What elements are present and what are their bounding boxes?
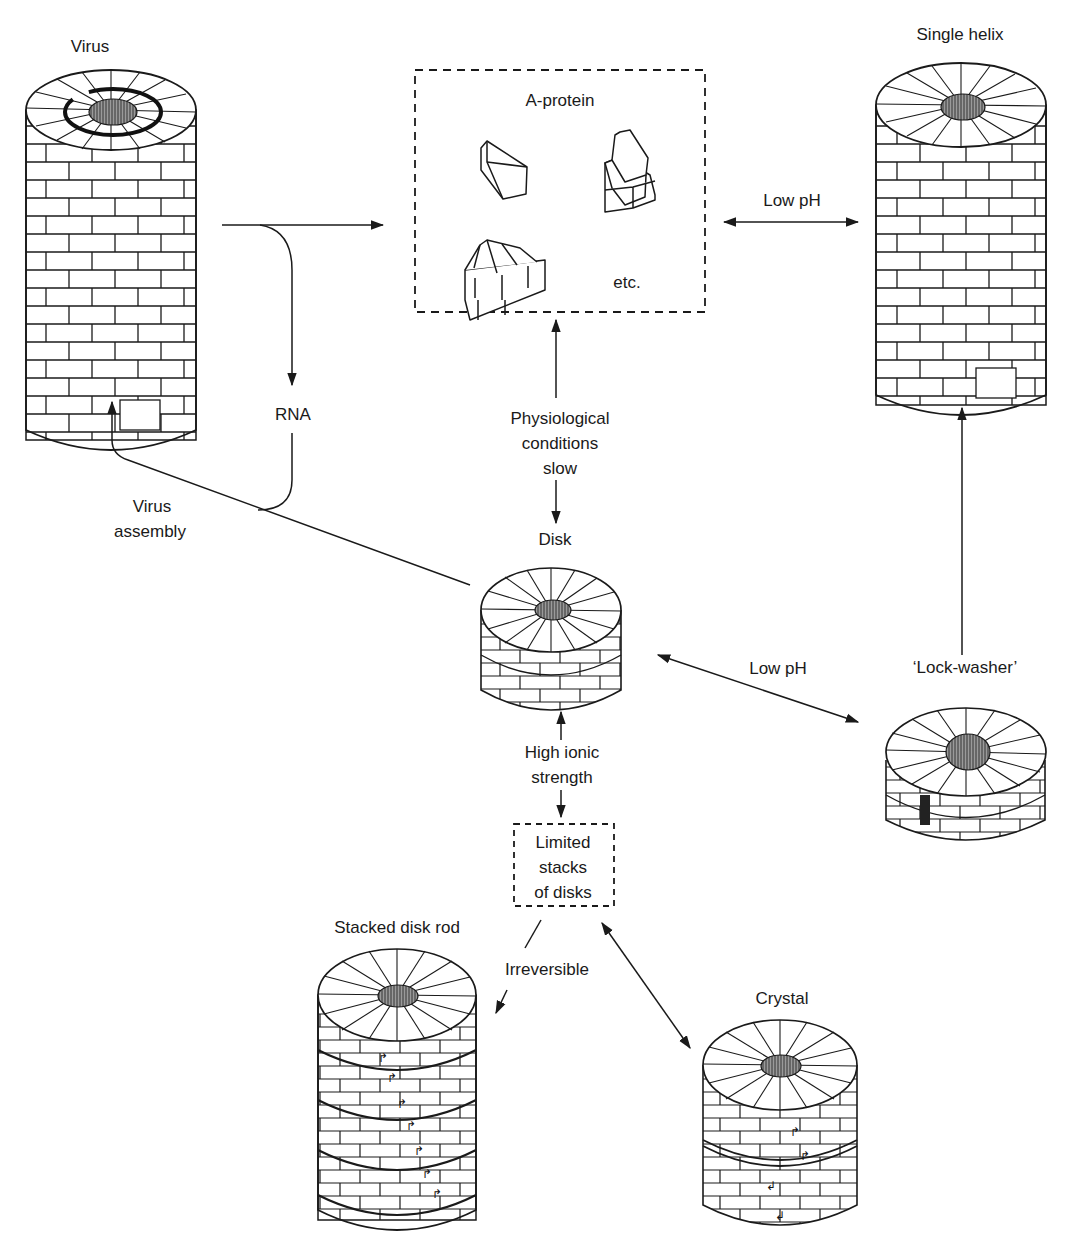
virus-assembly-line1: Virus — [133, 497, 171, 516]
ionic-line2: strength — [531, 768, 592, 787]
low-ph-top-label: Low pH — [763, 191, 821, 210]
disk-illustration — [481, 568, 621, 710]
irreversible-label: Irreversible — [505, 960, 589, 979]
svg-text:↱: ↱ — [378, 1051, 388, 1065]
svg-text:↱: ↱ — [414, 1144, 424, 1158]
virus-label: Virus — [71, 37, 109, 56]
limited-stacks-line1: Limited — [536, 833, 591, 852]
disk-label: Disk — [538, 530, 572, 549]
svg-text:↱: ↱ — [800, 1149, 810, 1163]
svg-text:↲: ↲ — [766, 1179, 776, 1193]
stacked-disk-rod-label: Stacked disk rod — [334, 918, 460, 937]
svg-text:↱: ↱ — [406, 1119, 416, 1133]
virus-assembly-line2: assembly — [114, 522, 186, 541]
ionic-line1: High ionic — [525, 743, 600, 762]
low-ph-mid-label: Low pH — [749, 659, 807, 678]
protein-subunit-pair — [605, 130, 655, 212]
arrow-stacks-crystal — [602, 923, 690, 1048]
diagram-canvas: Virus A-protein etc. — [0, 0, 1068, 1254]
physiological-line3: slow — [543, 459, 578, 478]
single-helix-illustration — [876, 63, 1046, 415]
crystal-illustration: ↱↱ ↲↲ — [703, 1020, 857, 1225]
physiological-line1: Physiological — [510, 409, 609, 428]
rna-to-assembly-path — [258, 433, 292, 510]
limited-stacks-line3: of disks — [534, 883, 592, 902]
lock-washer-label: ‘Lock-washer’ — [913, 658, 1018, 677]
protein-subunit-trio — [465, 240, 545, 320]
arrow-irreversible — [496, 990, 507, 1013]
svg-text:↲: ↲ — [775, 1209, 785, 1223]
arrow-to-rna — [260, 225, 292, 385]
etc-label: etc. — [613, 273, 640, 292]
lock-washer-illustration — [886, 708, 1046, 840]
virus-illustration — [26, 70, 196, 450]
irreversible-line-top — [525, 920, 541, 948]
rna-label: RNA — [275, 405, 312, 424]
svg-text:↱: ↱ — [422, 1167, 432, 1181]
svg-text:↱: ↱ — [790, 1125, 800, 1139]
stacked-disk-rod-illustration: ↱↱↱ ↱↱↱ ↱ — [318, 949, 476, 1230]
crystal-label: Crystal — [756, 989, 809, 1008]
svg-text:↱: ↱ — [397, 1097, 407, 1111]
limited-stacks-line2: stacks — [539, 858, 587, 877]
single-helix-label: Single helix — [917, 25, 1004, 44]
a-protein-label: A-protein — [526, 91, 595, 110]
svg-text:↱: ↱ — [432, 1187, 442, 1201]
svg-text:↱: ↱ — [387, 1071, 397, 1085]
physiological-line2: conditions — [522, 434, 599, 453]
protein-subunit-single — [481, 141, 527, 199]
